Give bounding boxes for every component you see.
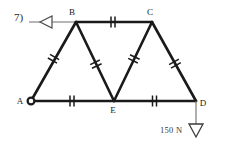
truss-svg-canvas: 7) A B C D E 150 N — [0, 0, 232, 145]
truss-diagram-figure: 7) A B C D E 150 N — [0, 0, 232, 145]
node-label-E: E — [110, 105, 116, 115]
node-label-D: D — [200, 98, 207, 108]
roller-support-icon — [40, 16, 52, 28]
node-label-A: A — [17, 96, 24, 106]
node-label-B: B — [69, 7, 75, 17]
load-magnitude-label: 150 N — [160, 125, 183, 135]
pin-joint-marker-A — [28, 98, 35, 105]
node-label-C: C — [147, 7, 153, 17]
load-arrowhead-icon — [189, 124, 203, 137]
problem-number-label: 7) — [14, 11, 24, 24]
